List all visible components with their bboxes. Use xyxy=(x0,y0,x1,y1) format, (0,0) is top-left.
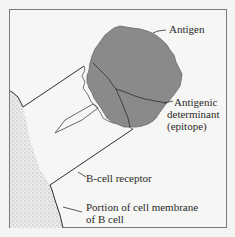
epitope-label: (epitope) xyxy=(167,120,207,132)
cell-membrane-label-line1: Portion of cell membrane xyxy=(86,201,198,213)
b-cell-receptor-label: B-cell receptor xyxy=(86,172,152,184)
receptor-leader-line xyxy=(78,172,86,177)
antigenic-determinant-label-line2: determinant xyxy=(167,108,220,120)
antigen-leader-line xyxy=(153,30,166,33)
membrane-leader-line xyxy=(63,207,82,212)
antigen-label: Antigen xyxy=(169,23,204,35)
antigenic-determinant-label-line1: Antigenic xyxy=(174,96,217,108)
b-cell-membrane xyxy=(10,91,63,228)
cell-membrane-label-line2: of B cell xyxy=(86,213,124,225)
